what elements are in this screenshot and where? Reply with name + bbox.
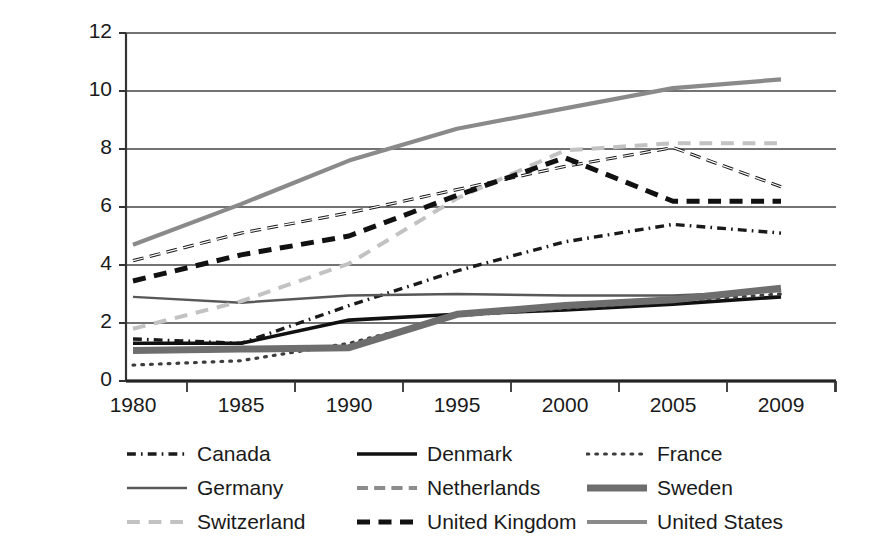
sweden-thick-solid-swatch (586, 481, 648, 495)
y-tick-label-10: 10 (46, 77, 112, 101)
us-gray-solid-swatch (586, 515, 648, 529)
legend-label: Canada (197, 442, 271, 466)
canada-dash-dot-swatch (126, 447, 188, 461)
line-chart-figure: 121086420 1980198519901995200020052009 C… (0, 0, 873, 554)
x-tick-marks (187, 381, 836, 392)
y-tick-label-8: 8 (46, 135, 112, 159)
x-tick-label-1980: 1980 (88, 393, 178, 417)
series-line-inner-netherlands (133, 148, 781, 261)
switzerland-light-dash-swatch (126, 515, 188, 529)
x-tick-label-1990: 1990 (304, 393, 394, 417)
series-line-canada (133, 224, 781, 343)
legend-label: Sweden (657, 476, 733, 500)
denmark-solid-swatch (356, 447, 418, 461)
netherlands-open-dash-swatch (356, 481, 418, 495)
legend-label: United States (657, 510, 783, 534)
legend-label: Netherlands (427, 476, 540, 500)
legend-label: Switzerland (197, 510, 306, 534)
uk-heavy-dash-swatch (356, 515, 418, 529)
legend-label: France (657, 442, 722, 466)
legend-item-united-states[interactable]: United States (586, 505, 816, 539)
y-tick-label-2: 2 (46, 309, 112, 333)
legend-item-france[interactable]: France (586, 437, 816, 471)
x-tick-label-1985: 1985 (196, 393, 286, 417)
y-tick-label-6: 6 (46, 193, 112, 217)
legend-item-united-kingdom[interactable]: United Kingdom (356, 505, 586, 539)
legend-item-netherlands[interactable]: Netherlands (356, 471, 586, 505)
france-dotted-swatch (586, 447, 648, 461)
legend-item-germany[interactable]: Germany (126, 471, 356, 505)
series-line-united-kingdom (133, 158, 781, 281)
series-line-denmark (133, 297, 781, 343)
legend-item-canada[interactable]: Canada (126, 437, 356, 471)
germany-thin-solid-swatch (126, 481, 188, 495)
y-tick-label-4: 4 (46, 251, 112, 275)
x-tick-label-2005: 2005 (628, 393, 718, 417)
legend-label: Denmark (427, 442, 512, 466)
legend-label: United Kingdom (427, 510, 576, 534)
chart-legend: CanadaDenmarkFranceGermanyNetherlandsSwe… (126, 437, 816, 539)
x-tick-label-2009: 2009 (736, 393, 826, 417)
y-tick-label-12: 12 (46, 19, 112, 43)
x-tick-label-2000: 2000 (520, 393, 610, 417)
y-tick-label-0: 0 (46, 367, 112, 391)
legend-item-switzerland[interactable]: Switzerland (126, 505, 356, 539)
x-tick-label-1995: 1995 (412, 393, 502, 417)
series-layer (133, 79, 781, 365)
series-line-united-states (133, 79, 781, 244)
legend-item-denmark[interactable]: Denmark (356, 437, 586, 471)
legend-item-sweden[interactable]: Sweden (586, 471, 816, 505)
legend-label: Germany (197, 476, 283, 500)
series-line-netherlands (133, 148, 781, 261)
